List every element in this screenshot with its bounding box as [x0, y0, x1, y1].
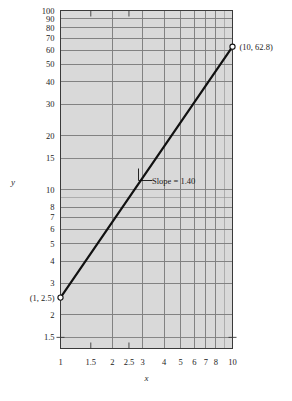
- data-point-marker: [230, 44, 235, 49]
- xtick-label: 8: [214, 357, 218, 367]
- ytick-label: 1.5: [44, 332, 55, 342]
- ytick-label: 50: [46, 59, 55, 69]
- ytick-label: 30: [46, 99, 55, 109]
- xtick-label: 7: [204, 357, 208, 367]
- ytick-label: 70: [46, 33, 55, 43]
- annotation-upper-point: (10, 62.8): [240, 42, 273, 52]
- ytick-label: 2: [50, 310, 54, 320]
- xtick-label: 1: [58, 357, 62, 367]
- ytick-label: 8: [50, 202, 54, 212]
- plot-background: [61, 11, 233, 349]
- xtick-label: 5: [179, 357, 183, 367]
- ytick-label: 6: [50, 224, 54, 234]
- ytick-label: 7: [50, 212, 54, 222]
- ytick-label: 40: [46, 77, 55, 87]
- xtick-label: 10: [228, 357, 237, 367]
- ytick-label: 3: [50, 278, 54, 288]
- annotation-lower-point: (1, 2.5): [30, 293, 55, 303]
- ytick-label: 60: [46, 45, 55, 55]
- ytick-label: 4: [50, 256, 55, 266]
- xtick-label: 3: [140, 357, 144, 367]
- data-point-marker: [58, 295, 63, 300]
- xtick-label: 6: [192, 357, 196, 367]
- xtick-label: 2.5: [124, 357, 135, 367]
- ytick-label: 10: [46, 185, 55, 195]
- xtick-label: 1.5: [85, 357, 96, 367]
- y-axis-title: y: [10, 177, 15, 187]
- ytick-label: 5: [50, 239, 54, 249]
- xtick-label: 2: [110, 357, 114, 367]
- ytick-label: 20: [46, 131, 55, 141]
- xtick-label: 4: [162, 357, 167, 367]
- ytick-label: 15: [46, 153, 55, 163]
- x-axis-title: x: [144, 373, 149, 383]
- annotation-slope: Slope = 1.40: [152, 176, 195, 186]
- ytick-label: 80: [46, 23, 55, 33]
- loglog-plot-figure: 1.523456781015203040506070809010011.522.…: [0, 0, 292, 401]
- plot-canvas: 1.523456781015203040506070809010011.522.…: [0, 0, 292, 401]
- ytick-label: 100: [42, 6, 55, 16]
